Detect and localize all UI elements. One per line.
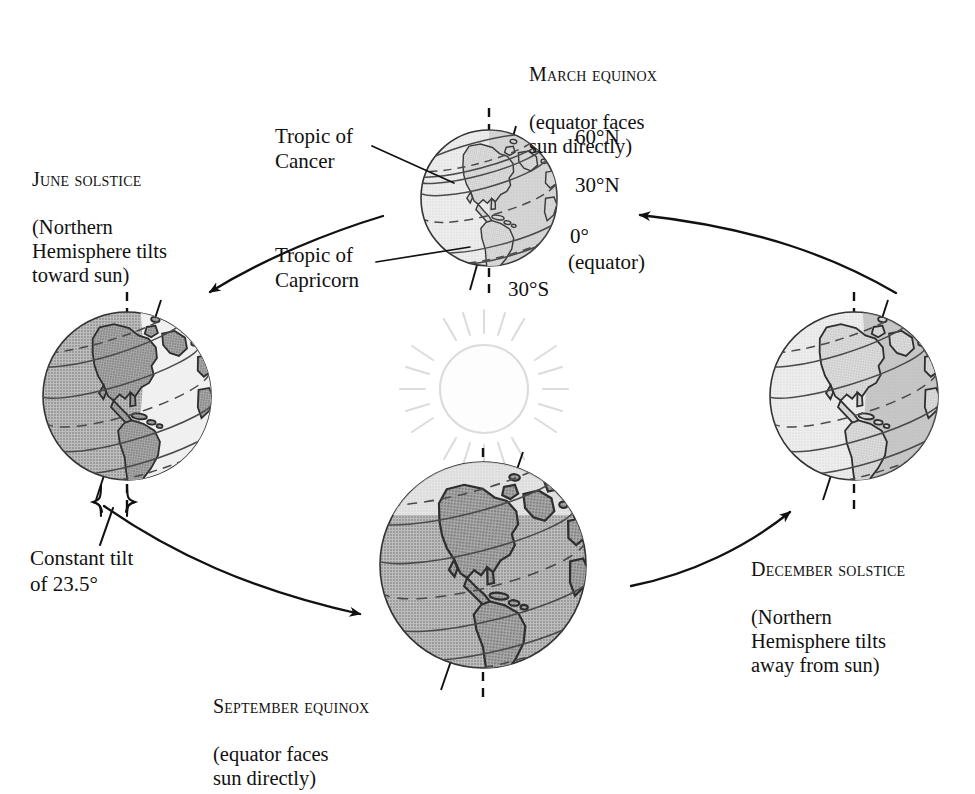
label-march-equinox: March equinox (equator faces sun directl… bbox=[529, 40, 657, 181]
label-december-solstice: December solstice (Northern Hemisphere t… bbox=[751, 535, 905, 700]
label-june-solstice-heading: June solstice bbox=[32, 168, 167, 192]
label-december-solstice-detail: (Northern Hemisphere tilts away from sun… bbox=[751, 605, 905, 678]
label-tropic-of-cancer: Tropic of Cancer bbox=[275, 124, 353, 174]
globe-december-solstice bbox=[751, 292, 959, 512]
label-june-solstice: June solstice (Northern Hemisphere tilts… bbox=[32, 145, 167, 310]
label-december-solstice-heading: December solstice bbox=[751, 558, 905, 582]
label-june-solstice-detail: (Northern Hemisphere tilts toward sun) bbox=[32, 215, 167, 288]
tilt-brace bbox=[93, 485, 135, 545]
orbit-arrow-june-to-september bbox=[104, 506, 360, 614]
label-september-equinox-heading: September equinox bbox=[213, 695, 369, 719]
sun-icon bbox=[400, 310, 568, 468]
label-march-equinox-heading: March equinox bbox=[529, 63, 657, 87]
label-tropic-of-capricorn: Tropic of Capricorn bbox=[275, 243, 359, 293]
latitude-tick-30n: 30°N bbox=[575, 173, 620, 198]
globe-june-solstice bbox=[24, 292, 232, 512]
latitude-tick-equator-note: (equator) bbox=[568, 250, 645, 275]
label-constant-tilt: Constant tilt of 23.5° bbox=[30, 545, 133, 598]
orbit-arrow-december-to-march bbox=[640, 215, 896, 293]
label-september-equinox: September equinox (equator faces sun dir… bbox=[213, 672, 369, 794]
latitude-tick-30s: 30°S bbox=[508, 277, 549, 302]
latitude-tick-equator: 0° bbox=[570, 224, 589, 249]
latitude-tick-60n: 60°N bbox=[575, 125, 620, 150]
label-september-equinox-detail: (equator faces sun directly) bbox=[213, 742, 369, 790]
globe-september-equinox bbox=[360, 448, 609, 700]
